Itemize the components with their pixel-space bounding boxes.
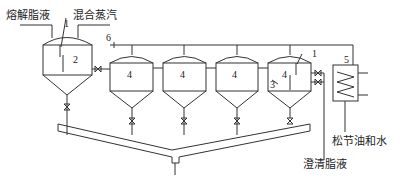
melted-fat-label: 熔解脂液 xyxy=(6,10,50,21)
label-4a: 4 xyxy=(127,70,132,80)
clarifier-tank-a xyxy=(110,45,153,135)
label-6: 6 xyxy=(106,33,111,43)
clarifier-tank-c xyxy=(216,45,258,135)
label-2: 2 xyxy=(73,55,78,65)
label-4d: 4 xyxy=(282,70,287,80)
label-3: 3 xyxy=(270,80,275,90)
clarified-fat-label: 澄清脂液 xyxy=(303,159,347,170)
melting-tank-2 xyxy=(20,18,110,135)
label-4c: 4 xyxy=(232,70,237,80)
turpentine-water-label: 松节油和水 xyxy=(332,136,387,147)
label-5: 5 xyxy=(344,55,349,65)
mixed-steam-label: 混合蒸汽 xyxy=(73,10,117,21)
clarifier-tank-b xyxy=(163,45,206,135)
label-4b: 4 xyxy=(180,70,185,80)
condenser-5 xyxy=(333,65,368,132)
label-1-left: 1 xyxy=(64,19,69,29)
label-1-right: 1 xyxy=(312,49,317,59)
